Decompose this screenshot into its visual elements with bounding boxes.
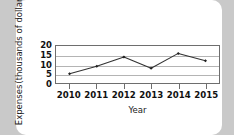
x-tick	[206, 84, 207, 89]
y-tick-label: 0	[30, 80, 52, 89]
x-tick	[96, 84, 97, 89]
y-tick-label: 15	[30, 50, 52, 59]
x-tick	[69, 84, 70, 89]
x-tick	[179, 84, 180, 89]
x-tick-label: 2013	[136, 90, 166, 101]
y-tick-label: 20	[30, 41, 52, 50]
x-tick-label: 2014	[164, 90, 194, 101]
plot-area	[55, 45, 220, 84]
data-point-marker	[68, 72, 71, 75]
line-chart-figure: Expenses (thousands of dollars) 05101520…	[0, 0, 234, 135]
y-axis-title-line1: Expenses	[14, 85, 24, 126]
y-tick-label: 10	[30, 60, 52, 69]
data-series-svg	[56, 46, 219, 83]
x-tick-label: 2011	[81, 90, 111, 101]
x-axis-title: Year	[55, 105, 220, 115]
x-tick-label: 2010	[54, 90, 84, 101]
data-point-marker	[204, 59, 207, 62]
data-point-marker	[122, 56, 125, 59]
x-tick-label: 2012	[109, 90, 139, 101]
x-tick	[151, 84, 152, 89]
x-tick-label: 2015	[191, 90, 221, 101]
expenses-line	[70, 53, 206, 73]
y-axis-tick-labels: 05101520	[30, 41, 52, 87]
y-tick-label: 5	[30, 70, 52, 79]
x-tick	[124, 84, 125, 89]
y-axis-title-line2: (thousands of dollars)	[14, 0, 24, 84]
x-axis-ticks	[55, 84, 220, 89]
page-root: Expenses (thousands of dollars) 05101520…	[0, 0, 234, 135]
data-point-marker	[95, 65, 98, 68]
x-axis-tick-labels: 201020112012201320142015	[55, 90, 220, 102]
